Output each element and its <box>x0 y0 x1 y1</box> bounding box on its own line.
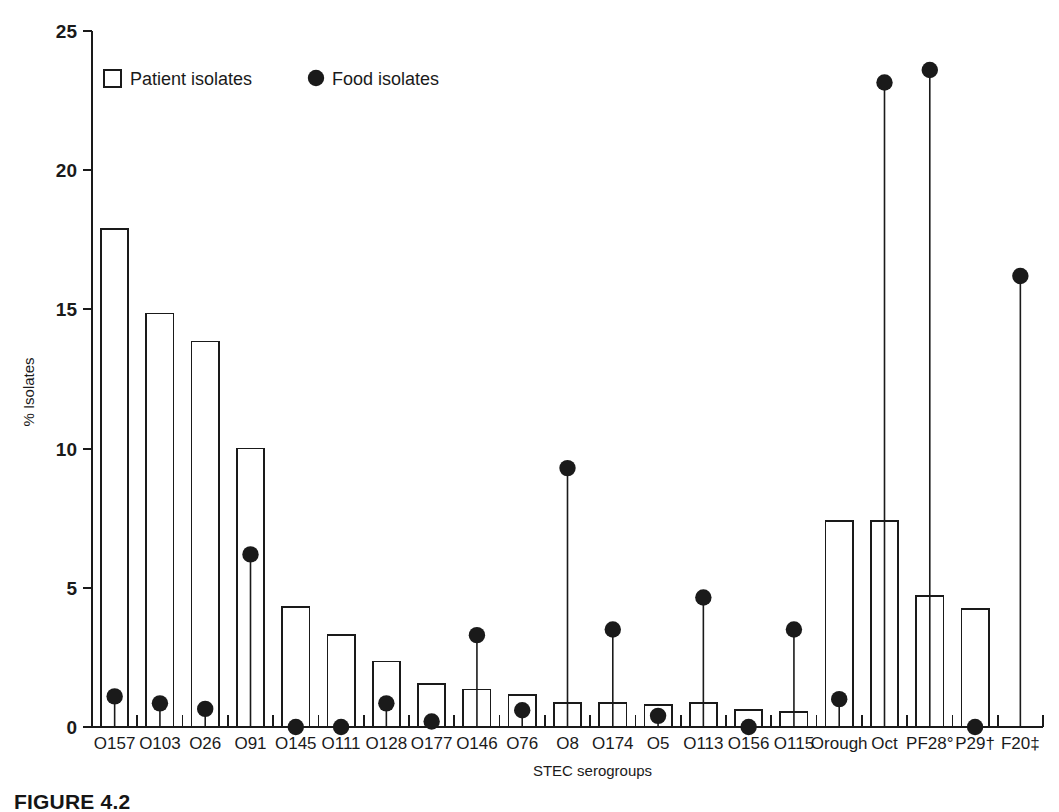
x-axis-tick-label: P29† <box>955 734 995 753</box>
dot-food-isolates <box>559 460 575 476</box>
legend-label-patient-isolates: Patient isolates <box>130 69 252 89</box>
dot-food-isolates <box>106 688 122 704</box>
dot-food-isolates <box>922 62 938 78</box>
stec-serogroups-chart: 0510152025% IsolatesO157O103O26O91O145O1… <box>0 0 1059 812</box>
x-axis-tick-label: O145 <box>275 734 317 753</box>
figure-caption: FIGURE 4.2 <box>14 790 130 812</box>
x-axis-tick-label: O157 <box>94 734 136 753</box>
y-axis-tick-label: 25 <box>56 21 78 42</box>
dot-food-isolates <box>423 713 439 729</box>
x-axis-tick-label: Orough <box>811 734 868 753</box>
y-axis-tick-label: 10 <box>56 439 77 460</box>
x-axis-tick-label: O146 <box>456 734 498 753</box>
x-axis-tick-label: O103 <box>139 734 181 753</box>
dot-food-isolates <box>242 546 258 562</box>
x-axis-tick-label: O111 <box>322 734 361 753</box>
x-axis-tick-label: O115 <box>774 734 814 753</box>
bar-patient-isolates <box>327 635 354 727</box>
x-axis-tick-label: O8 <box>556 734 579 753</box>
dot-food-isolates <box>831 691 847 707</box>
dot-food-isolates <box>740 719 756 735</box>
x-axis-tick-label: F20‡ <box>1001 734 1040 753</box>
dot-food-isolates <box>695 589 711 605</box>
dot-food-isolates <box>288 719 304 735</box>
x-axis-tick-label: Oct <box>871 734 898 753</box>
dot-food-isolates <box>197 701 213 717</box>
dot-food-isolates <box>876 74 892 90</box>
x-axis-tick-label: O177 <box>411 734 453 753</box>
dot-food-isolates <box>378 695 394 711</box>
x-axis-tick-label: O26 <box>189 734 221 753</box>
bar-patient-isolates <box>146 314 173 727</box>
x-axis-title: STEC serogroups <box>533 762 652 779</box>
legend-label-food-isolates: Food isolates <box>332 69 439 89</box>
dot-food-isolates <box>1012 268 1028 284</box>
dot-food-isolates <box>333 719 349 735</box>
dot-food-isolates <box>967 719 983 735</box>
dot-food-isolates <box>650 708 666 724</box>
dot-food-isolates <box>605 621 621 637</box>
x-axis-tick-label: PF28° <box>906 734 953 753</box>
bar-patient-isolates <box>101 229 128 727</box>
x-axis-tick-label: O91 <box>234 734 266 753</box>
dot-food-isolates <box>514 702 530 718</box>
x-axis-tick-label: O76 <box>506 734 538 753</box>
y-axis-title: % Isolates <box>20 357 37 426</box>
x-axis-tick-label: O128 <box>366 734 408 753</box>
dot-food-isolates <box>152 695 168 711</box>
figure-container: 0510152025% IsolatesO157O103O26O91O145O1… <box>0 0 1059 812</box>
bar-patient-isolates <box>192 341 219 727</box>
x-axis-tick-label: O5 <box>647 734 670 753</box>
y-axis-tick-label: 20 <box>56 160 77 181</box>
legend-marker-patient-isolates <box>104 70 121 87</box>
x-axis-tick-label: O156 <box>728 734 770 753</box>
dot-food-isolates <box>786 621 802 637</box>
bar-patient-isolates <box>961 609 988 727</box>
bar-patient-isolates <box>282 607 309 727</box>
dot-food-isolates <box>469 627 485 643</box>
x-axis-tick-label: O113 <box>683 734 723 753</box>
y-axis-tick-label: 5 <box>66 578 77 599</box>
legend-marker-food-isolates <box>308 70 324 86</box>
y-axis-tick-label: 15 <box>56 299 78 320</box>
y-axis-tick-label: 0 <box>66 717 77 738</box>
x-axis-tick-label: O174 <box>592 734 634 753</box>
